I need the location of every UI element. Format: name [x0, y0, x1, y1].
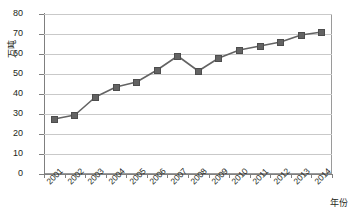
data-point-marker	[51, 116, 58, 123]
line-chart: 万吨 年份 01020304050607080 2001200220032004…	[0, 0, 359, 213]
data-point-marker	[257, 43, 264, 50]
series-line	[0, 0, 359, 213]
data-point-marker	[318, 29, 325, 36]
data-point-marker	[113, 84, 120, 91]
data-point-marker	[71, 112, 78, 119]
data-point-marker	[92, 94, 99, 101]
data-point-marker	[277, 39, 284, 46]
data-point-marker	[195, 68, 202, 75]
data-point-marker	[298, 32, 305, 39]
data-point-marker	[174, 53, 181, 60]
data-point-marker	[215, 55, 222, 62]
data-point-marker	[133, 79, 140, 86]
data-point-marker	[236, 47, 243, 54]
data-point-marker	[154, 67, 161, 74]
